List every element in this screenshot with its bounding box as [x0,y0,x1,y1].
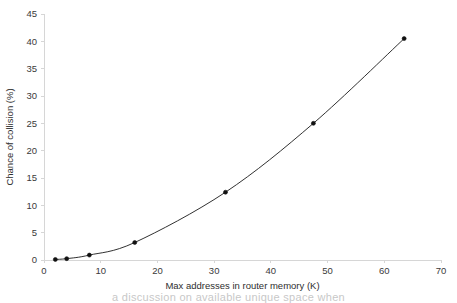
x-tick-label: 30 [209,265,220,276]
y-axis-ticks: 051015202530354045 [26,8,44,265]
data-series-group [53,37,406,262]
y-tick-label: 40 [26,36,37,47]
data-point-marker [223,190,227,194]
y-tick-label: 25 [26,118,37,129]
y-tick-label: 45 [26,8,37,19]
x-tick-label: 50 [322,265,333,276]
y-tick-label: 30 [26,90,37,101]
y-tick-label: 20 [26,145,37,156]
x-tick-label: 20 [152,265,163,276]
data-point-marker [402,37,406,41]
x-tick-label: 40 [266,265,277,276]
x-axis-title: Max addresses in router memory (K) [165,280,319,291]
x-axis-ticks: 010203040506070 [41,260,446,276]
data-point-marker [53,257,57,261]
data-point-marker [133,241,137,245]
x-tick-label: 0 [41,265,46,276]
y-tick-label: 15 [26,172,37,183]
y-tick-label: 0 [32,254,37,265]
y-tick-label: 10 [26,200,37,211]
y-axis-title: Chance of collision (%) [4,88,15,185]
y-tick-label: 35 [26,63,37,74]
x-tick-label: 10 [95,265,106,276]
y-tick-label: 5 [32,227,37,238]
x-tick-label: 60 [379,265,390,276]
x-tick-label: 70 [436,265,447,276]
caption-fragment: a discussion on available unique space w… [0,291,457,303]
data-point-marker [311,121,315,125]
chart-axes [44,14,441,260]
data-point-marker [87,253,91,257]
series-line [55,39,404,260]
data-point-marker [65,257,69,261]
